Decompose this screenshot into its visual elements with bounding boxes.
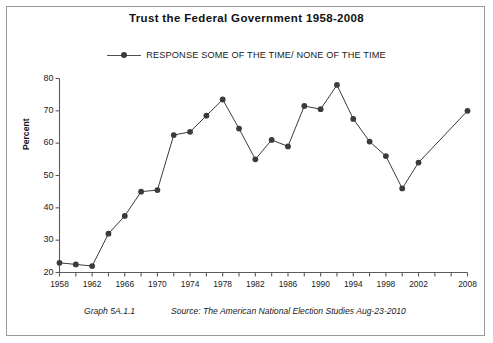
data-point-marker (106, 231, 112, 237)
data-point-marker (350, 116, 356, 122)
x-axis-tick-label: 1994 (336, 279, 370, 289)
data-point-marker (171, 132, 177, 138)
data-point-marker (220, 97, 226, 103)
plot-svg (0, 0, 493, 343)
y-axis-tick-label: 50 (32, 170, 54, 180)
data-point-marker (399, 186, 405, 192)
x-axis-tick-label: 2002 (402, 279, 436, 289)
data-point-marker (236, 126, 242, 132)
data-point-marker (416, 160, 422, 166)
data-point-marker (334, 82, 340, 88)
footer-source: Source: The American National Election S… (171, 306, 406, 316)
data-point-marker (367, 139, 373, 145)
x-axis-tick-label: 1986 (271, 279, 305, 289)
data-point-marker (301, 103, 307, 109)
x-axis-tick-label: 1990 (304, 279, 338, 289)
x-axis-tick-label: 1978 (206, 279, 240, 289)
x-axis-tick-label: 1998 (369, 279, 403, 289)
chart-screenshot: Trust the Federal Government 1958-2008 R… (0, 0, 493, 343)
x-axis-tick-label: 2008 (451, 279, 485, 289)
data-point-marker (252, 156, 258, 162)
data-point-marker (203, 113, 209, 119)
y-axis-tick-label: 60 (32, 137, 54, 147)
y-axis-tick-label: 70 (32, 105, 54, 115)
data-point-marker (318, 106, 324, 112)
x-axis-tick-label: 1958 (43, 279, 77, 289)
data-point-marker (122, 213, 128, 219)
data-point-marker (73, 262, 79, 268)
data-point-marker (285, 144, 291, 150)
data-line (60, 85, 468, 266)
y-axis-tick-label: 80 (32, 73, 54, 83)
x-axis-tick-label: 1982 (238, 279, 272, 289)
data-point-marker (465, 108, 471, 114)
y-axis-tick-label: 30 (32, 234, 54, 244)
footer-graph-number: Graph 5A.1.1 (84, 306, 135, 316)
x-axis-tick-label: 1970 (140, 279, 174, 289)
x-axis-tick-label: 1974 (173, 279, 207, 289)
data-point-marker (187, 129, 193, 135)
data-point-marker (269, 137, 275, 143)
x-axis-tick-label: 1966 (108, 279, 142, 289)
y-axis-tick-label: 20 (32, 267, 54, 277)
x-axis-tick-label: 1962 (75, 279, 109, 289)
data-point-marker (383, 153, 389, 159)
plot-area (0, 0, 493, 343)
y-axis-tick-label: 40 (32, 202, 54, 212)
data-point-marker (89, 263, 95, 269)
data-point-marker (138, 189, 144, 195)
data-point-marker (57, 260, 63, 266)
data-point-marker (155, 187, 161, 193)
